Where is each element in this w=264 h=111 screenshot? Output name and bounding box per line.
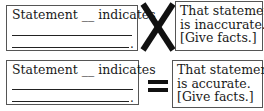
response-line-2a: That statement [177, 63, 262, 77]
blank-line-1b [12, 47, 129, 48]
response-line-1a: That statement [180, 4, 262, 18]
blank-line-1a [12, 35, 132, 36]
end-period-1: . [130, 38, 134, 50]
x-mark-icon [140, 2, 176, 52]
response-box-1: That statement is inaccurate. [Give fact… [175, 1, 263, 51]
response-box-2: That statement is accurate. [Give facts.… [172, 60, 263, 108]
response-line-1c: [Give facts.] [180, 31, 262, 45]
blank-line-2b [12, 101, 129, 102]
blank-line-2a [12, 89, 133, 90]
statement-text-1: Statement __ indicates [7, 6, 137, 22]
response-line-2c: [Give facts.] [177, 90, 262, 104]
equals-sign-icon [148, 78, 168, 94]
statement-box-1: Statement __ indicates . [6, 5, 138, 51]
end-period-2: . [130, 92, 134, 104]
response-line-2b: is accurate. [177, 77, 262, 91]
statement-text-2: Statement __ indicates [7, 61, 138, 77]
statement-box-2: Statement __ indicates . [6, 60, 139, 105]
response-line-1b: is inaccurate. [180, 18, 262, 32]
